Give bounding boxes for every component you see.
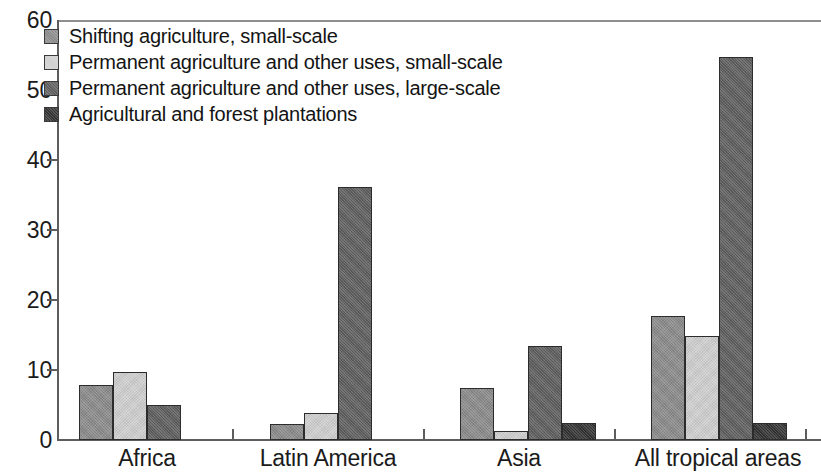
y-tick-mark-40 — [47, 159, 59, 161]
y-tick-label-10: 10 — [8, 359, 52, 382]
legend-label-plantations: Agricultural and forest plantations — [69, 103, 357, 125]
x-category-label-asia: Asia — [424, 446, 614, 471]
bar-latin-america-series-3 — [338, 187, 372, 440]
y-tick-label-30: 30 — [8, 219, 52, 242]
bar-asia-series-3 — [528, 346, 562, 440]
bar-latin-america-series-2 — [304, 413, 338, 440]
legend-label-shifting-agriculture: Shifting agriculture, small-scale — [69, 25, 338, 47]
bar-africa-series-1 — [79, 385, 113, 440]
bar-asia-series-1 — [460, 388, 494, 441]
bar-africa-series-2 — [113, 372, 147, 440]
legend-swatch-icon-shifting-agriculture — [44, 29, 59, 44]
legend-swatch-icon-plantations — [44, 107, 59, 122]
y-tick-label-0: 0 — [8, 429, 52, 452]
legend-label-permanent-small: Permanent agriculture and other uses, sm… — [69, 51, 503, 73]
legend-item-permanent-large: Permanent agriculture and other uses, la… — [44, 76, 514, 100]
bar-chart: 60 50 40 30 20 10 0 Africa Latin America… — [0, 0, 821, 473]
bar-africa-series-3 — [147, 405, 181, 440]
bar-all-tropical-areas-series-1 — [651, 316, 685, 440]
bar-all-tropical-areas-series-2 — [685, 336, 719, 440]
legend-item-shifting-agriculture: Shifting agriculture, small-scale — [44, 24, 514, 48]
x-category-label-all-tropical-areas: All tropical areas — [615, 446, 821, 471]
bar-asia-series-4 — [562, 423, 596, 440]
bar-all-tropical-areas-series-3 — [719, 57, 753, 440]
x-category-label-latin-america: Latin America — [233, 446, 423, 471]
legend-item-plantations: Agricultural and forest plantations — [44, 102, 514, 126]
legend-item-permanent-small: Permanent agriculture and other uses, sm… — [44, 50, 514, 74]
y-tick-label-40: 40 — [8, 149, 52, 172]
y-tick-mark-10 — [47, 369, 59, 371]
legend-swatch-icon-permanent-large — [44, 81, 59, 96]
y-tick-mark-20 — [47, 299, 59, 301]
legend: Shifting agriculture, small-scale Perman… — [44, 24, 514, 128]
bar-latin-america-series-1 — [270, 424, 304, 440]
bar-asia-series-2 — [494, 431, 528, 440]
legend-label-permanent-large: Permanent agriculture and other uses, la… — [69, 77, 500, 99]
y-tick-label-20: 20 — [8, 289, 52, 312]
bar-all-tropical-areas-series-4 — [753, 423, 787, 440]
y-tick-mark-30 — [47, 229, 59, 231]
legend-swatch-icon-permanent-small — [44, 55, 59, 70]
x-category-label-africa: Africa — [62, 446, 232, 471]
